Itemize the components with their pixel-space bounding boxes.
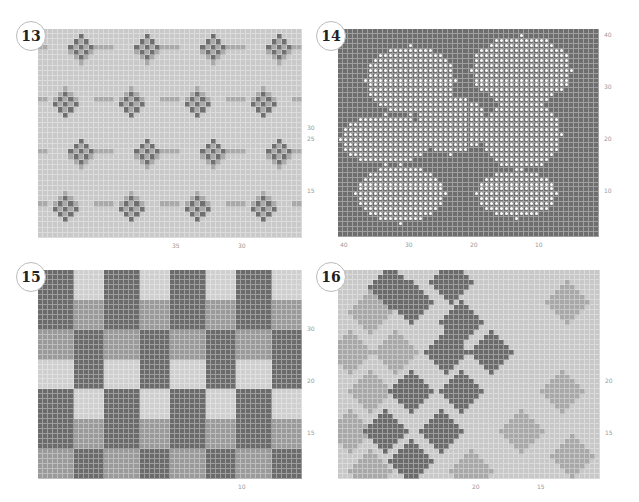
axis-tick-label: 30	[405, 241, 413, 248]
axis-tick-label: 10	[604, 187, 612, 194]
axis-tick-label: 10	[238, 483, 246, 490]
axis-tick-label: 30	[238, 242, 246, 249]
axis-tick-label: 20	[605, 377, 613, 384]
chart-number-badge: 13	[16, 21, 46, 51]
axis-tick-label: 40	[340, 241, 348, 248]
axis-tick-label: 10	[535, 241, 543, 248]
axis-tick-label: 20	[472, 483, 480, 490]
chart-number-badge: 14	[316, 21, 346, 51]
axis-tick-label: 15	[605, 429, 613, 436]
axis-tick-label: 15	[307, 187, 315, 194]
axis-tick-label: 30	[307, 124, 315, 131]
axis-tick-label: 35	[172, 242, 180, 249]
axis-tick-label: 15	[537, 483, 545, 490]
axis-tick-label: 20	[307, 377, 315, 384]
axis-tick-label: 40	[604, 31, 612, 38]
axis-tick-label: 15	[307, 429, 315, 436]
chart-grid-15	[38, 270, 302, 479]
axis-tick-label: 30	[604, 83, 612, 90]
axis-tick-label: 20	[470, 241, 478, 248]
axis-tick-label: 25	[307, 135, 315, 142]
chart-grid-13	[38, 29, 302, 238]
chart-number-badge: 16	[316, 262, 346, 292]
axis-tick-label: 20	[604, 135, 612, 142]
chart-grid-14	[338, 29, 599, 237]
chart-grid-16	[338, 270, 600, 479]
axis-tick-label: 30	[307, 325, 315, 332]
chart-number-badge: 15	[16, 262, 46, 292]
